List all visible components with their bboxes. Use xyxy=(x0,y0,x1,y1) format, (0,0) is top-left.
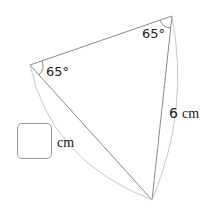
triangle-diagram: 65° 65° 6 cm cm xyxy=(0,0,214,211)
right-side-length-label: 6 cm xyxy=(169,104,199,122)
right-side-unit: cm xyxy=(182,106,199,121)
angle-label-top-right: 65° xyxy=(142,26,165,41)
right-side-length-value: 6 xyxy=(169,105,178,121)
angle-arc-left xyxy=(39,61,43,75)
answer-input-box[interactable] xyxy=(17,123,52,159)
angle-label-left: 65° xyxy=(46,64,69,79)
left-side-unit: cm xyxy=(57,135,74,151)
